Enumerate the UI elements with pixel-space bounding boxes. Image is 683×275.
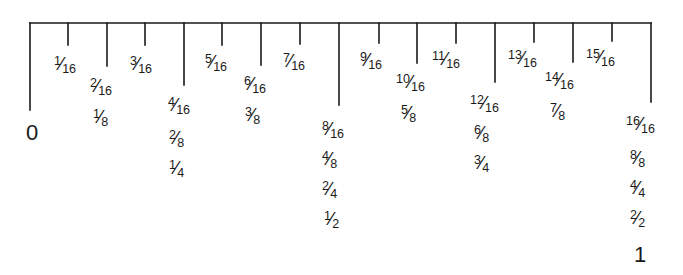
fraction-label: 3⁄16 bbox=[130, 53, 152, 76]
end-label-one: 1 bbox=[634, 242, 646, 267]
fraction-label: 2⁄8 bbox=[169, 127, 184, 150]
fraction-label: 1⁄2 bbox=[324, 208, 339, 231]
fraction-label: 3⁄4 bbox=[474, 152, 489, 175]
fraction-labels: 1⁄163⁄162⁄161⁄85⁄167⁄166⁄163⁄84⁄162⁄81⁄4… bbox=[54, 46, 655, 231]
fraction-label: 8⁄16 bbox=[322, 118, 344, 141]
fraction-label: 2⁄2 bbox=[630, 207, 645, 230]
fraction-label: 8⁄8 bbox=[630, 147, 645, 170]
fraction-label: 11⁄16 bbox=[432, 48, 460, 71]
fraction-label: 5⁄8 bbox=[401, 102, 416, 125]
fraction-label: 6⁄16 bbox=[244, 73, 266, 96]
fraction-label: 4⁄4 bbox=[630, 177, 645, 200]
tick-marks bbox=[30, 23, 651, 110]
fraction-label: 13⁄16 bbox=[508, 47, 537, 70]
fraction-label: 10⁄16 bbox=[396, 71, 425, 94]
fraction-label: 6⁄8 bbox=[474, 122, 489, 145]
fraction-label: 4⁄8 bbox=[322, 148, 337, 171]
fraction-label: 4⁄16 bbox=[168, 94, 190, 117]
fraction-label: 7⁄16 bbox=[283, 50, 305, 73]
fraction-label: 2⁄16 bbox=[90, 75, 112, 98]
fraction-label: 3⁄8 bbox=[245, 104, 260, 127]
fraction-label: 7⁄8 bbox=[550, 100, 565, 123]
fraction-label: 14⁄16 bbox=[545, 69, 574, 92]
fraction-label: 12⁄16 bbox=[470, 92, 499, 115]
ruler-diagram: 1⁄163⁄162⁄161⁄85⁄167⁄166⁄163⁄84⁄162⁄81⁄4… bbox=[0, 0, 683, 275]
fraction-label: 15⁄16 bbox=[586, 46, 615, 69]
start-label-zero: 0 bbox=[26, 120, 38, 145]
fraction-label: 9⁄16 bbox=[360, 49, 382, 72]
fraction-label: 1⁄4 bbox=[169, 157, 184, 180]
fraction-label: 2⁄4 bbox=[322, 178, 337, 201]
fraction-label: 1⁄8 bbox=[93, 106, 108, 129]
fraction-label: 5⁄16 bbox=[205, 51, 227, 74]
fraction-label: 16⁄16 bbox=[626, 113, 655, 136]
fraction-label: 1⁄16 bbox=[54, 53, 76, 76]
